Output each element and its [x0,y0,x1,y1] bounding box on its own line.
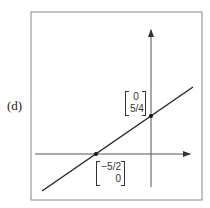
x-intercept-vector: −5/2 0 [96,161,125,186]
right-bracket [121,161,125,186]
y-intercept-point [149,114,153,118]
left-bracket [96,161,100,186]
right-bracket [142,91,146,116]
x-intercept-point [94,152,98,156]
part-label: (d) [7,98,22,114]
left-bracket [125,91,129,116]
y-intercept-vector: 0 5/4 [125,91,146,116]
